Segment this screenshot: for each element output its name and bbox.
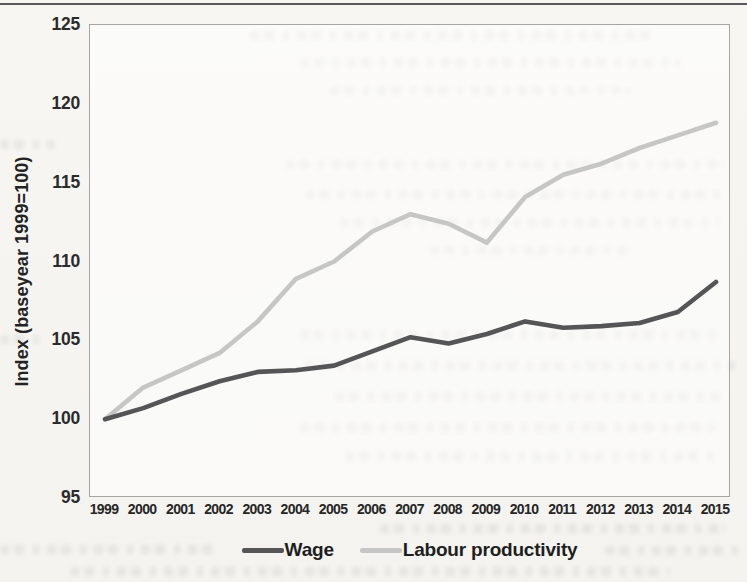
x-tick-label-2010: 2010 xyxy=(504,501,544,517)
y-tick-label-115: 115 xyxy=(0,172,80,192)
x-tick-label-2000: 2000 xyxy=(122,501,162,517)
x-tick-label-2015: 2015 xyxy=(695,501,735,517)
x-tick-label-2002: 2002 xyxy=(199,501,239,517)
series-lines-svg xyxy=(90,25,731,498)
x-tick-label-2011: 2011 xyxy=(542,501,582,517)
legend-label-wage: Wage xyxy=(285,539,334,561)
y-tick-label-105: 105 xyxy=(0,329,80,349)
y-tick-label-95: 95 xyxy=(0,487,80,507)
wage-line-swatch-icon xyxy=(242,548,284,553)
x-axis-tick-labels: 1999200020012002200320042005200620072008… xyxy=(89,501,730,519)
chart-legend: Wage Labour productivity xyxy=(89,537,730,563)
bleed-through-smudge xyxy=(380,524,725,533)
x-tick-label-2003: 2003 xyxy=(237,501,277,517)
y-tick-label-110: 110 xyxy=(0,251,80,271)
scanned-book-page: Index (baseyear 1999=100) 95100105110115… xyxy=(0,0,747,582)
page-top-rule xyxy=(0,3,747,5)
y-tick-label-100: 100 xyxy=(0,408,80,428)
legend-item-labour-productivity: Labour productivity xyxy=(360,539,578,561)
labour-productivity-line-swatch-icon xyxy=(360,548,402,553)
y-tick-label-120: 120 xyxy=(0,93,80,113)
x-tick-label-2013: 2013 xyxy=(619,501,659,517)
x-tick-label-2009: 2009 xyxy=(466,501,506,517)
legend-item-wage: Wage xyxy=(242,539,334,561)
x-tick-label-1999: 1999 xyxy=(84,501,124,517)
series-line-wage xyxy=(105,282,716,419)
x-tick-label-2008: 2008 xyxy=(428,501,468,517)
legend-label-labour-productivity: Labour productivity xyxy=(403,539,578,561)
x-tick-label-2007: 2007 xyxy=(390,501,430,517)
x-tick-label-2014: 2014 xyxy=(657,501,697,517)
x-tick-label-2001: 2001 xyxy=(160,501,200,517)
x-tick-label-2005: 2005 xyxy=(313,501,353,517)
y-tick-label-125: 125 xyxy=(0,14,80,34)
x-tick-label-2006: 2006 xyxy=(351,501,391,517)
plot-area xyxy=(89,24,730,497)
bleed-through-smudge xyxy=(70,567,670,576)
y-axis-tick-labels: 95100105110115120125 xyxy=(0,24,80,497)
x-tick-label-2012: 2012 xyxy=(580,501,620,517)
x-tick-label-2004: 2004 xyxy=(275,501,315,517)
series-line-labour-productivity xyxy=(105,123,716,419)
